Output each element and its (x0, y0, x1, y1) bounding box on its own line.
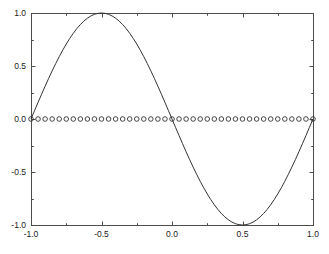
plot-svg[interactable]: -1.0-0.50.00.51.0 -1.0-0.50.00.51.0 (0, 0, 329, 254)
figure-canvas: -1.0-0.50.00.51.0 -1.0-0.50.00.51.0 (0, 0, 329, 254)
y-tick-label: 1.0 (14, 8, 26, 18)
y-tick-label: 0.5 (14, 61, 26, 71)
y-tick-label: -0.5 (11, 167, 26, 177)
y-tick-label: -1.0 (11, 220, 26, 230)
x-tick-label: 1.0 (307, 229, 319, 239)
y-tick-label: 0.0 (14, 114, 26, 124)
x-tick-label: 0.0 (166, 229, 178, 239)
figure-background (0, 0, 329, 254)
x-tick-label: -0.5 (94, 229, 109, 239)
x-tick-label: -1.0 (24, 229, 39, 239)
x-tick-label: 0.5 (237, 229, 249, 239)
